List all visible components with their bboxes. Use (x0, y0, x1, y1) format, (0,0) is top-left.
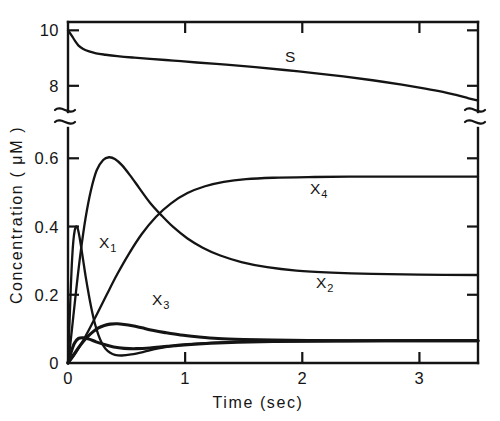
figure-container: 012300.20.40.6810 SX1X2X3X4 Concentratio… (0, 0, 500, 421)
x-axis-title: Time (sec) (213, 394, 304, 411)
curve-label-x3: X3 (152, 291, 169, 311)
curve-label-x2: X2 (316, 274, 333, 294)
axis-ticks (68, 22, 478, 363)
curve-x4 (68, 177, 478, 363)
data-curves (68, 30, 478, 363)
y-tick-label-0: 0 (49, 354, 59, 372)
curve-x5-lower-transient (68, 338, 478, 363)
axis-frame (68, 22, 478, 363)
x-tick-label-2: 2 (297, 369, 307, 387)
curve-label-x1: X1 (99, 234, 116, 254)
y-tick-label-0.6: 0.6 (35, 149, 59, 167)
axis-break-symbol (55, 108, 485, 123)
curve-x3 (68, 324, 478, 363)
y-axis-title: Concentration ( μM ) (8, 126, 25, 304)
concentration-time-chart: 012300.20.40.6810 SX1X2X3X4 Concentratio… (0, 0, 500, 421)
y-tick-label-8: 8 (49, 77, 59, 95)
x-tick-label-1: 1 (180, 369, 190, 387)
curve-label-x4: X4 (310, 180, 327, 200)
curve-s (68, 30, 478, 100)
x-tick-label-0: 0 (63, 369, 73, 387)
y-tick-label-0.2: 0.2 (35, 286, 59, 304)
y-tick-label-0.4: 0.4 (35, 218, 59, 236)
curve-x2 (68, 157, 478, 363)
curve-label-s: S (285, 48, 295, 65)
x-tick-label-3: 3 (415, 369, 425, 387)
y-tick-label-10: 10 (40, 21, 59, 39)
